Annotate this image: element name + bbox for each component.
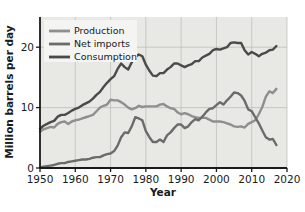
chart-figure: 01020 19501960197019801990200020102020 M… bbox=[0, 0, 305, 212]
x-tick-label: 2000 bbox=[203, 173, 230, 185]
x-tick-label: 1950 bbox=[27, 173, 54, 185]
x-tick-label: 1990 bbox=[168, 173, 195, 185]
x-tick-label: 1960 bbox=[62, 173, 89, 185]
x-tick-label: 1980 bbox=[132, 173, 159, 185]
legend-label-net-imports: Net imports bbox=[74, 38, 130, 49]
y-tick-label: 10 bbox=[21, 101, 34, 113]
x-tick-label: 1970 bbox=[97, 173, 124, 185]
x-tick-label: 2020 bbox=[274, 173, 301, 185]
x-tick-label: 2010 bbox=[238, 173, 265, 185]
y-tick-label: 20 bbox=[21, 41, 34, 53]
legend-label-production: Production bbox=[74, 25, 125, 36]
y-axis-title: Million barrels per day bbox=[3, 25, 15, 159]
legend-label-consumption: Consumption bbox=[74, 51, 137, 62]
chart-legend: ProductionNet importsConsumption bbox=[44, 20, 137, 62]
x-axis-title: Year bbox=[149, 186, 177, 198]
